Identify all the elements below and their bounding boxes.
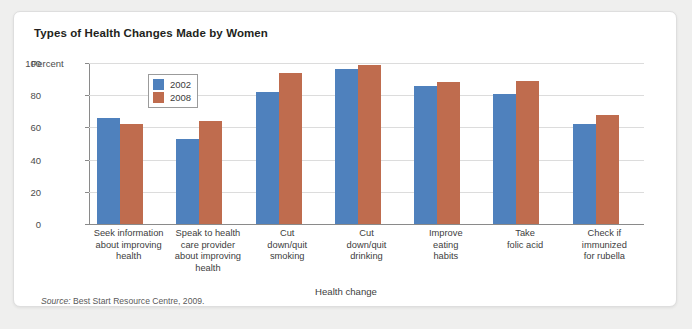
bar-2002	[335, 69, 358, 224]
source-text: Best Start Resource Centre, 2009.	[73, 296, 204, 306]
y-tick-mark-60	[85, 127, 89, 128]
chart-plot: 020406080100Seek informationabout improv…	[14, 12, 677, 307]
figure-card: Types of Health Changes Made by Women Pe…	[13, 11, 677, 307]
bar-group	[248, 63, 327, 224]
bar-2008	[516, 81, 539, 224]
y-tick-label-80: 80	[13, 90, 41, 101]
bar-2008	[279, 73, 302, 224]
gridline-0	[89, 224, 644, 225]
y-tick-label-60: 60	[13, 122, 41, 133]
y-tick-mark-40	[85, 160, 89, 161]
y-tick-mark-20	[85, 192, 89, 193]
bar-group	[565, 63, 644, 224]
source-note: Source: Best Start Resource Centre, 2009…	[41, 296, 204, 306]
y-tick-mark-100	[85, 63, 89, 64]
bar-group	[406, 63, 485, 224]
bar-2008	[358, 65, 381, 224]
bar-2008	[596, 115, 619, 224]
bar-2002	[573, 124, 596, 224]
legend-label-2002: 2002	[170, 79, 191, 90]
y-tick-label-40: 40	[13, 154, 41, 165]
y-tick-label-20: 20	[13, 186, 41, 197]
x-category-label: Check ifimmunizedfor rubella	[557, 228, 652, 263]
y-tick-label-100: 100	[13, 58, 41, 69]
bar-2002	[97, 118, 120, 224]
bar-2002	[414, 86, 437, 224]
bar-2002	[176, 139, 199, 224]
bar-2002	[256, 92, 279, 224]
bar-2008	[120, 124, 143, 224]
legend-swatch-2002	[153, 79, 164, 90]
y-tick-mark-0	[85, 224, 89, 225]
chart-legend: 2002 2008	[148, 74, 198, 108]
bar-group	[327, 63, 406, 224]
y-tick-label-0: 0	[13, 219, 41, 230]
bar-2008	[199, 121, 222, 224]
bar-2008	[437, 82, 460, 224]
legend-label-2008: 2008	[170, 92, 191, 103]
legend-item-2002: 2002	[153, 78, 191, 91]
bar-group	[485, 63, 564, 224]
bar-2002	[493, 94, 516, 224]
legend-item-2008: 2008	[153, 91, 191, 104]
source-label: Source:	[41, 296, 71, 306]
y-tick-mark-80	[85, 95, 89, 96]
legend-swatch-2008	[153, 92, 164, 103]
